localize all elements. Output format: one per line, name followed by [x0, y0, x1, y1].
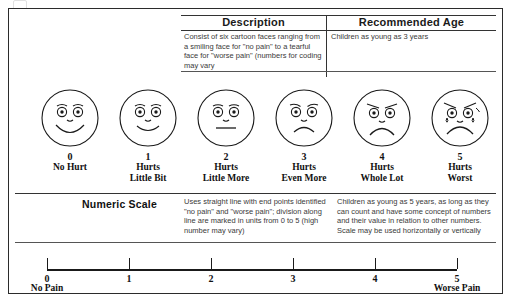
face-label-line2: Worst [421, 173, 499, 184]
face-item-1[interactable]: 1 Hurts Little Bit [109, 87, 187, 183]
cell-faces-recommended-age: Children as young as 3 years [331, 32, 491, 42]
face-number: 3 [265, 151, 343, 162]
faces-pain-scale: 0 No Hurt 1 Hurts Little Bit [9, 87, 504, 187]
column-header-recommended-age: Recommended Age [327, 16, 496, 28]
cell-numeric-description: Uses straight line with end points ident… [184, 197, 332, 235]
face-label-line1: Hurts [343, 162, 421, 173]
face-label-line1: No Hurt [31, 162, 109, 173]
numeric-row-rule-bottom [15, 242, 496, 243]
face-label-line2: Even More [265, 173, 343, 184]
face-item-5[interactable]: 5 Hurts Worst [421, 87, 499, 183]
face-number: 4 [343, 151, 421, 162]
number-line-label: 2 [191, 273, 231, 284]
number-line-label: 3 [273, 273, 313, 284]
neutral-face-icon [195, 87, 257, 149]
numeric-pain-scale-line[interactable]: 0 1 2 3 4 5 No Pain Worse Pain [9, 249, 504, 295]
face-item-2[interactable]: 2 Hurts Little More [187, 87, 265, 183]
face-label-line2: Little Bit [109, 173, 187, 184]
number-line-endpoint-left: No Pain [2, 283, 92, 293]
table-row: Numeric Scale Uses straight line with en… [15, 195, 496, 241]
number-line-tick [375, 258, 376, 269]
crying-face-icon [429, 87, 491, 149]
sad-face-icon [351, 87, 413, 149]
number-line-label: 1 [109, 273, 149, 284]
face-number: 2 [187, 151, 265, 162]
frowning-face-icon [273, 87, 335, 149]
table-row: Consist of six cartoon faces ranging fro… [181, 30, 496, 71]
table-header-row: Description Recommended Age [181, 15, 496, 30]
column-header-description: Description [181, 16, 326, 28]
cell-faces-description: Consist of six cartoon faces ranging fro… [184, 32, 322, 70]
face-label-line1: Hurts [265, 162, 343, 173]
face-number: 0 [31, 151, 109, 162]
number-line-endpoint-right: Worse Pain [412, 283, 502, 293]
row-rule-bottom [181, 71, 496, 72]
number-line-tick [129, 258, 130, 269]
number-line-axis [47, 269, 457, 271]
number-line-tick [457, 258, 458, 269]
face-label-line1: Hurts [187, 162, 265, 173]
numeric-row-rule-top [15, 193, 496, 194]
face-item-3[interactable]: 3 Hurts Even More [265, 87, 343, 183]
slight-smile-face-icon [117, 87, 179, 149]
face-number: 5 [421, 151, 499, 162]
face-label-line1: Hurts [421, 162, 499, 173]
row-label-numeric-scale: Numeric Scale [57, 198, 182, 210]
smiling-face-icon [39, 87, 101, 149]
face-label-line1: Hurts [109, 162, 187, 173]
face-item-0[interactable]: 0 No Hurt [31, 87, 109, 173]
cell-numeric-recommended-age: Children as young as 5 years, as long as… [337, 197, 497, 235]
face-label-line2: Little More [187, 173, 265, 184]
face-label-line2: Whole Lot [343, 173, 421, 184]
number-line-tick [47, 258, 48, 269]
number-line-label: 4 [355, 273, 395, 284]
number-line-tick [293, 258, 294, 269]
face-item-4[interactable]: 4 Hurts Whole Lot [343, 87, 421, 183]
pain-scale-document-frame: Description Recommended Age Consist of s… [8, 8, 503, 294]
number-line-tick [211, 258, 212, 269]
face-number: 1 [109, 151, 187, 162]
